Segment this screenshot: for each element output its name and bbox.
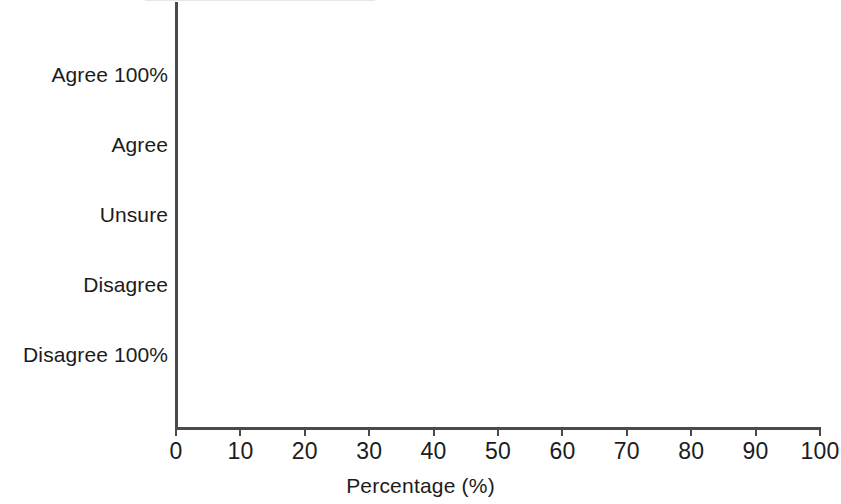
x-tick-label: 80: [678, 438, 704, 465]
x-tick-label: 0: [170, 438, 183, 465]
bar-row: [176, 257, 337, 315]
bar-row: [176, 117, 365, 175]
category-label: Unsure: [100, 203, 168, 227]
x-tick-label: 100: [801, 438, 840, 465]
x-tick-mark: [755, 427, 757, 436]
x-tick-mark: [433, 427, 435, 436]
x-tick-label: 50: [485, 438, 511, 465]
x-tick-mark: [368, 427, 370, 436]
x-tick-mark: [304, 427, 306, 436]
x-tick-mark: [690, 427, 692, 436]
x-tick-mark: [626, 427, 628, 436]
bars-layer: Agree 100%AgreeUnsureDisagreeDisagree 10…: [0, 0, 841, 504]
category-label: Disagree 100%: [23, 343, 168, 367]
x-tick-mark: [561, 427, 563, 436]
x-axis-title: Percentage (%): [0, 474, 841, 498]
category-label: Agree: [111, 133, 168, 157]
x-tick-label: 70: [614, 438, 640, 465]
x-tick-label: 30: [356, 438, 382, 465]
bar-chart-figure: Agree 100%AgreeUnsureDisagreeDisagree 10…: [0, 0, 841, 504]
x-tick-label: 40: [421, 438, 447, 465]
bar-row: [176, 327, 250, 385]
x-tick-label: 90: [743, 438, 769, 465]
x-tick-mark: [819, 427, 821, 436]
x-tick-mark: [239, 427, 241, 436]
category-label: Agree 100%: [51, 63, 168, 87]
bar-row: [176, 187, 310, 245]
x-tick-mark: [497, 427, 499, 436]
x-tick-label: 60: [549, 438, 575, 465]
x-tick-mark: [175, 427, 177, 436]
x-tick-label: 10: [227, 438, 253, 465]
bar-row: [176, 47, 258, 105]
x-tick-label: 20: [292, 438, 318, 465]
category-label: Disagree: [83, 273, 168, 297]
